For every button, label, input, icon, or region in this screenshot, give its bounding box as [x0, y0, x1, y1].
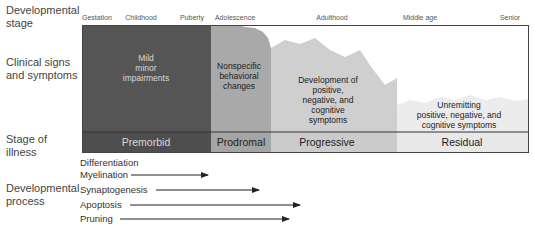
phase-text-line: Mild	[123, 53, 169, 63]
illness-stage-prodromal: Prodromal	[217, 136, 265, 148]
phase-text-mild-impairments: Mild minor impairments	[123, 53, 169, 83]
process-pruning: Pruning	[80, 213, 113, 224]
phase-text-line: Nonspecific	[217, 61, 261, 71]
process-apoptosis: Apoptosis	[80, 199, 122, 210]
phase-text-line: changes	[217, 81, 261, 91]
process-differentiation: Differentiation	[80, 157, 138, 168]
illness-stage-residual: Residual	[442, 136, 483, 148]
phase-text-line: cognitive symptoms	[417, 120, 502, 130]
phase-text-development: Development of positive, negative, and c…	[298, 75, 358, 125]
phase-text-nonspecific: Nonspecific behavioral changes	[217, 61, 261, 91]
phase-text-line: negative, and	[298, 95, 358, 105]
phase-text-line: positive, negative, and	[417, 110, 502, 120]
phase-text-line: behavioral	[217, 71, 261, 81]
phase-text-line: cognitive	[298, 105, 358, 115]
process-myelination: Myelination	[80, 169, 128, 180]
phase-text-line: Development of	[298, 75, 358, 85]
illness-stage-progressive: Progressive	[299, 136, 354, 148]
phase-text-line: symptoms	[298, 115, 358, 125]
illness-stage-premorbid: Premorbid	[122, 136, 170, 148]
phase-text-line: positive,	[298, 85, 358, 95]
phase-text-line: minor	[123, 63, 169, 73]
process-synaptogenesis: Synaptogenesis	[80, 184, 148, 195]
phase-text-unremitting: Unremitting positive, negative, and cogn…	[417, 100, 502, 130]
phase-text-line: impairments	[123, 73, 169, 83]
phase-text-line: Unremitting	[417, 100, 502, 110]
